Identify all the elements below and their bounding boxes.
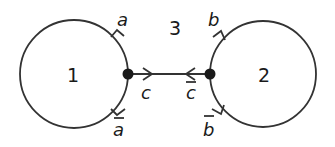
arrow-a-icon: [111, 30, 124, 37]
edge-b-label: b: [208, 9, 219, 30]
vertex-left: [123, 69, 134, 80]
region-1-label: 1: [67, 64, 79, 86]
arrow-a-bar-icon: [111, 109, 125, 115]
arrow-b-bar-icon: [212, 105, 224, 114]
edge-c-bar-label: c: [186, 82, 196, 103]
edge-c-label: c: [141, 82, 151, 103]
edge-a-bar-label: a: [113, 119, 124, 140]
vertex-right: [205, 69, 216, 80]
edge-b-bar-label: b: [203, 119, 214, 140]
region-2-label: 2: [258, 64, 270, 86]
diagram-canvas: 1 2 3 a a c c b b: [0, 0, 335, 147]
region-3-label: 3: [169, 17, 181, 39]
edge-a-label: a: [117, 9, 128, 30]
